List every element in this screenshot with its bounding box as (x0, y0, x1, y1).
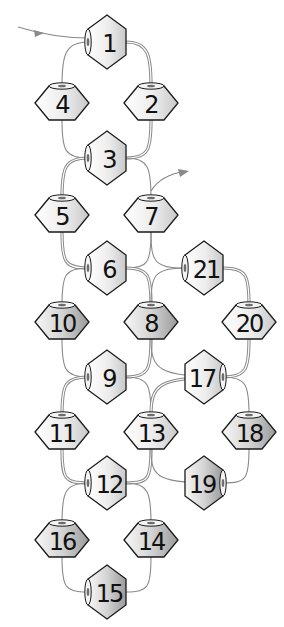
bead-number-label: 1 (102, 30, 116, 58)
bead-hole-icon (236, 412, 262, 418)
thread-3-5 (62, 158, 88, 198)
thread-20-17 (223, 339, 249, 377)
bead-15: 15 (85, 565, 126, 619)
bead-hole-icon (85, 579, 91, 605)
bead-2: 2 (124, 83, 178, 120)
bead-hole-icon (138, 83, 164, 89)
bead-hole-icon (236, 302, 262, 308)
thread-16-15 (62, 557, 88, 592)
bead-hole-icon (138, 195, 164, 201)
bead-hole-icon (49, 520, 75, 526)
thread-11-12 (62, 449, 88, 483)
bead-number-label: 18 (236, 420, 263, 448)
bead-number-label: 8 (144, 310, 158, 338)
bead-20: 20 (222, 302, 276, 339)
bead-7: 7 (124, 195, 178, 232)
thread-6-8 (126, 268, 151, 305)
bead-number-label: 7 (144, 203, 158, 231)
bead-hole-icon (49, 302, 75, 308)
bead-6: 6 (85, 241, 126, 295)
bead-hole-icon (138, 302, 164, 308)
thread-12-14 (126, 483, 151, 523)
thread-7-21 (151, 232, 185, 268)
bead-hole-icon (220, 364, 226, 390)
bead-number-label: 6 (102, 256, 116, 284)
bead-number-label: 13 (138, 420, 165, 448)
bead-number-label: 14 (138, 528, 165, 556)
bead-hole-icon (85, 29, 91, 55)
bead-number-label: 17 (189, 365, 216, 393)
bead-hole-icon (49, 412, 75, 418)
thread-2-3 (126, 120, 151, 158)
bead-number-label: 12 (96, 471, 123, 499)
bead-number-label: 10 (49, 310, 76, 338)
bead-hole-icon (85, 470, 91, 496)
bead-number-label: 3 (102, 146, 116, 174)
thread-7-6 (126, 232, 151, 268)
arrow-head-icon (178, 169, 189, 177)
bead-hole-icon (49, 195, 75, 201)
bead-number-label: 4 (55, 91, 69, 119)
bead-number-label: 11 (49, 420, 76, 448)
bead-hole-icon (85, 364, 91, 390)
thread-17-18 (223, 377, 249, 415)
thread-10-9 (62, 339, 88, 377)
thread-13-12 (126, 449, 151, 483)
bead-hole-icon (85, 145, 91, 171)
thread-14-15 (126, 557, 151, 592)
bead-14: 14 (124, 520, 178, 557)
bead-16: 16 (35, 520, 89, 557)
bead-hole-icon (85, 255, 91, 281)
thread-21-8 (151, 268, 185, 305)
arrow-head-icon (34, 30, 44, 37)
thread-21-20 (223, 268, 249, 305)
bead-21: 21 (182, 241, 223, 295)
bead-number-label: 15 (96, 580, 123, 608)
thread-8-9 (126, 339, 151, 377)
beads: 123456789101112131415161718192021 (35, 15, 276, 619)
bead-number-label: 5 (55, 203, 69, 231)
bead-12: 12 (85, 456, 126, 510)
exit-arrow (151, 169, 189, 191)
bead-hole-icon (49, 83, 75, 89)
bead-hole-icon (138, 520, 164, 526)
bead-hole-icon (182, 255, 188, 281)
thread-1-2 (126, 42, 151, 86)
bead-19: 19 (185, 456, 226, 510)
bead-diagram: 123456789101112131415161718192021 (0, 0, 284, 627)
bead-3: 3 (85, 131, 126, 185)
bead-number-label: 20 (236, 310, 263, 338)
thread-12-16 (62, 483, 88, 523)
bead-number-label: 16 (49, 528, 76, 556)
thread-3-7 (126, 158, 151, 198)
bead-8: 8 (124, 302, 178, 339)
start-arrow (18, 27, 92, 38)
thread-6-10 (62, 268, 88, 305)
thread-4-3 (62, 120, 88, 158)
bead-10: 10 (35, 302, 89, 339)
thread-5-6 (62, 232, 88, 268)
thread-9-13 (126, 377, 151, 415)
thread-1-4 (62, 42, 88, 86)
thread-9-11 (62, 377, 88, 415)
bead-5: 5 (35, 195, 89, 232)
bead-4: 4 (35, 83, 89, 120)
bead-11: 11 (35, 412, 89, 449)
bead-hole-icon (138, 412, 164, 418)
bead-13: 13 (124, 412, 178, 449)
bead-9: 9 (85, 350, 126, 404)
bead-1: 1 (85, 15, 126, 69)
bead-number-label: 19 (189, 471, 216, 499)
bead-hole-icon (220, 470, 226, 496)
bead-18: 18 (222, 412, 276, 449)
thread-18-19 (223, 449, 249, 483)
bead-number-label: 21 (193, 256, 220, 284)
bead-number-label: 2 (144, 91, 157, 119)
bead-17: 17 (185, 350, 226, 404)
bead-number-label: 9 (102, 365, 116, 393)
